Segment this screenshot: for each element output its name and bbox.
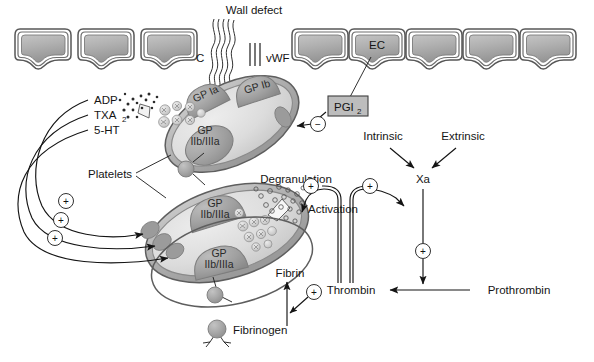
plus-sign: + [52, 233, 58, 244]
plus-sign-badge-loop3: + [48, 231, 63, 246]
pgi2-subscript: 2 [357, 107, 362, 116]
thrombin-label: Thrombin [327, 284, 376, 296]
extrinsic-label: Extrinsic [441, 130, 485, 142]
txa2-subscript: 2 [122, 115, 127, 124]
platelets-label: Platelets [88, 168, 132, 180]
plus-sign: + [311, 287, 317, 298]
plus-sign-badge-xa: + [416, 244, 431, 259]
collagen-label: C [196, 52, 204, 64]
fibrinogen-sphere [207, 287, 223, 303]
plus-sign: + [420, 246, 426, 257]
fibrinogen-label: Fibrinogen [233, 324, 287, 336]
vwf-label: vWF [266, 52, 290, 64]
gp-iibiiia-label-line2: IIb/IIIa [190, 135, 219, 147]
fibrin-label: Fibrin [276, 267, 305, 279]
adp-label: ADP [94, 94, 118, 106]
ec-label: EC [369, 39, 385, 51]
minus-sign: − [315, 119, 321, 130]
serotonin-label: 5-HT [94, 124, 120, 136]
pgi2-label: PGI [334, 101, 354, 113]
plus-sign: + [63, 196, 69, 207]
intrinsic-label: Intrinsic [363, 130, 403, 142]
pgi2-box: PGI 2 [328, 96, 368, 116]
wall-defect-label: Wall defect [226, 4, 283, 16]
plus-sign: + [308, 181, 314, 192]
xa-label: Xa [416, 173, 431, 185]
diagram-canvas: Wall defect C vWF EC GP Ia GP Ib [0, 0, 594, 362]
svg-text:TXA: TXA [94, 109, 117, 121]
minus-sign-badge: − [311, 117, 326, 132]
plus-sign-badge-activation: + [304, 179, 319, 194]
gp-iibiiia-label-line2: IIb/IIIa [204, 258, 233, 270]
plus-sign: + [58, 215, 64, 226]
plus-sign: + [367, 181, 373, 192]
degranulation-label: Degranulation [260, 173, 332, 185]
activation-label: Activation [308, 203, 358, 215]
plus-sign-badge-loop1: + [59, 194, 74, 209]
gp-iibiiia-label-line2: IIb/IIIa [200, 208, 229, 220]
prothrombin-label: Prothrombin [488, 284, 551, 296]
plus-sign-badge-fibrin: + [307, 285, 322, 300]
platelet-coagulation-diagram: Wall defect C vWF EC GP Ia GP Ib [0, 0, 594, 362]
fibrinogen-sphere [178, 161, 194, 177]
fibrinogen-sphere [208, 320, 226, 338]
plus-sign-badge-loop2: + [54, 213, 69, 228]
